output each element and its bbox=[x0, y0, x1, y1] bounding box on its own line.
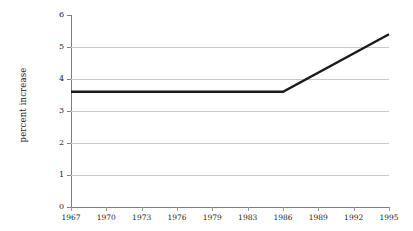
x-tick-label-1970: 1970 bbox=[97, 214, 116, 222]
y-axis-title: percent increase bbox=[12, 0, 34, 210]
x-tick-mark-1979 bbox=[212, 207, 213, 211]
x-tick-label-1995: 1995 bbox=[379, 214, 398, 222]
x-tick-mark-1970 bbox=[106, 207, 107, 211]
chart-figure: percent increase 0123456 196719701973197… bbox=[0, 0, 413, 231]
x-tick-label-1992: 1992 bbox=[344, 214, 363, 222]
x-tick-label-1976: 1976 bbox=[167, 214, 186, 222]
x-tick-label-1986: 1986 bbox=[273, 214, 292, 222]
gridline-y-0 bbox=[71, 207, 389, 208]
x-tick-mark-1983 bbox=[248, 207, 249, 211]
x-tick-mark-1976 bbox=[177, 207, 178, 211]
x-tick-label-1989: 1989 bbox=[309, 214, 328, 222]
x-tick-label-1983: 1983 bbox=[238, 214, 257, 222]
y-tick-label: 0 bbox=[59, 203, 64, 211]
x-tick-mark-1989 bbox=[318, 207, 319, 211]
y-axis-title-text: percent increase bbox=[18, 68, 28, 143]
x-tick-mark-1973 bbox=[142, 207, 143, 211]
x-tick-label-1973: 1973 bbox=[132, 214, 151, 222]
y-tick-label: 2 bbox=[59, 139, 64, 147]
y-tick-label: 5 bbox=[59, 43, 64, 51]
y-tick-label: 1 bbox=[59, 171, 64, 179]
x-tick-label-1979: 1979 bbox=[203, 214, 222, 222]
x-tick-label-1967: 1967 bbox=[61, 214, 80, 222]
plot-area: 0123456 19671970197319761979198319861989… bbox=[71, 15, 389, 207]
y-tick-label: 3 bbox=[59, 107, 64, 115]
x-tick-mark-1992 bbox=[354, 207, 355, 211]
x-tick-mark-1995 bbox=[389, 207, 390, 211]
x-tick-mark-1986 bbox=[283, 207, 284, 211]
y-tick-label: 6 bbox=[59, 11, 64, 19]
series-line-percent-increase bbox=[71, 15, 389, 207]
x-tick-mark-1967 bbox=[71, 207, 72, 211]
y-tick-label: 4 bbox=[59, 75, 64, 83]
series-polyline bbox=[71, 34, 389, 92]
